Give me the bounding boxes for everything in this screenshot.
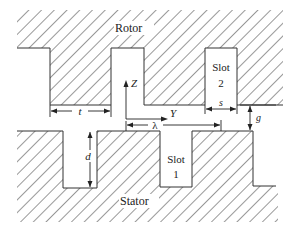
svg-text:Z: Z — [131, 77, 138, 89]
arrowhead-icon — [88, 132, 93, 138]
slot1-label: Slot — [167, 153, 185, 165]
arrowhead-icon — [230, 107, 236, 112]
dimension-g: g — [240, 105, 276, 130]
svg-text:g: g — [256, 112, 261, 123]
z-axis-arrow-icon — [124, 80, 129, 87]
dimension-s: s — [205, 97, 237, 114]
arrowhead-icon — [206, 107, 212, 112]
svg-text:Y: Y — [170, 107, 178, 119]
arrowhead-icon — [51, 109, 57, 114]
arrowhead-icon — [248, 124, 253, 130]
rotor: Rotor Slot 2 — [0, 0, 291, 120]
slot2-label: Slot — [212, 61, 230, 73]
rotor-stator-diagram: Rotor Slot 2 Stator Slot 1 t — [0, 0, 291, 233]
slot1-number: 1 — [173, 168, 179, 180]
rotor-label: Rotor — [115, 21, 142, 35]
svg-text:t: t — [78, 105, 82, 117]
stator-hatch — [0, 125, 291, 233]
dimension-d: d — [85, 132, 92, 187]
arrowhead-icon — [214, 123, 220, 128]
svg-text:s: s — [219, 97, 223, 108]
stator: Stator Slot 1 — [0, 125, 291, 233]
stator-label: Stator — [120, 194, 149, 208]
y-axis-arrow-icon — [161, 117, 168, 122]
arrowhead-icon — [88, 181, 93, 187]
rotor-hatch — [0, 0, 291, 120]
dimension-t: t — [50, 105, 111, 117]
slot2-number: 2 — [218, 77, 224, 89]
svg-text:d: d — [85, 150, 91, 162]
arrowhead-icon — [248, 106, 253, 112]
svg-text:λ: λ — [152, 119, 158, 131]
arrowhead-icon — [127, 123, 133, 128]
dimension-lambda: λ — [126, 119, 221, 131]
arrowhead-icon — [104, 109, 110, 114]
